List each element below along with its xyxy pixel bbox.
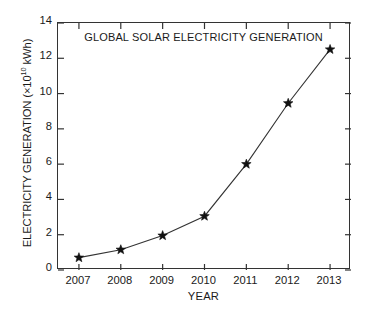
data-point-marker: [74, 253, 84, 262]
chart-figure: ELECTRICITY GENERATION (×1010 kWh) 02468…: [0, 0, 367, 322]
axis-ticks: [58, 23, 351, 270]
y-axis-tick-label: 0: [26, 261, 52, 273]
y-axis-tick-label: 2: [26, 226, 52, 238]
y-axis-tick-label: 14: [26, 14, 52, 26]
x-axis-tick-label: 2013: [306, 274, 352, 286]
plot-area: [57, 22, 350, 269]
data-point-marker: [158, 231, 168, 240]
x-axis-tick-label: 2007: [55, 274, 101, 286]
x-axis-tick-label: 2011: [222, 274, 268, 286]
y-axis-tick-label: 6: [26, 155, 52, 167]
x-axis-tick-label: 2012: [264, 274, 310, 286]
chart-canvas: [58, 23, 351, 270]
chart-title: GLOBAL SOLAR ELECTRICITY GENERATION: [57, 31, 350, 43]
y-axis-tick-labels: 02468101214: [24, 22, 52, 269]
y-axis-tick-label: 4: [26, 190, 52, 202]
data-point-marker: [116, 245, 126, 254]
y-axis-tick-label: 12: [26, 49, 52, 61]
x-axis-tick-label: 2010: [181, 274, 227, 286]
y-axis-tick-label: 8: [26, 120, 52, 132]
x-axis-tick-label: 2009: [139, 274, 185, 286]
y-axis-tick-label: 10: [26, 85, 52, 97]
data-series-line: [79, 49, 330, 257]
data-point-marker: [242, 159, 252, 168]
data-point-markers: [74, 44, 335, 261]
x-axis-tick-label: 2008: [97, 274, 143, 286]
data-point-marker: [325, 44, 335, 53]
x-axis-label: YEAR: [57, 290, 350, 302]
